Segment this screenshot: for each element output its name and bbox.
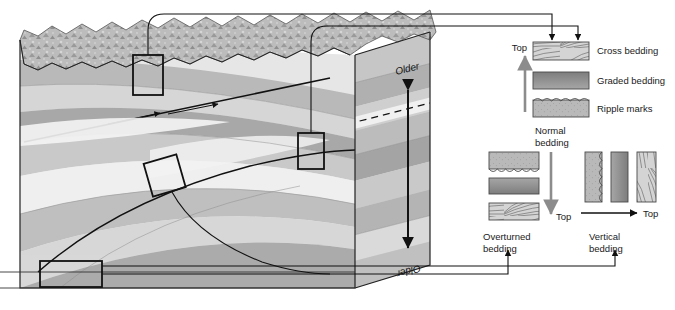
- overturned-ripple-marks[interactable]: [489, 152, 539, 172]
- overturned-graded-bedding[interactable]: [489, 178, 539, 194]
- normal-caption-line1: Normal: [535, 125, 566, 136]
- overturned-bedding-panel: Top Overturned bedding: [483, 152, 571, 254]
- vertical-ripple-marks[interactable]: [585, 152, 602, 202]
- overturned-top-label: Top: [556, 211, 571, 222]
- normal-caption-line2: bedding: [535, 137, 569, 148]
- legend-item-ripple-marks[interactable]: Ripple marks: [533, 99, 653, 118]
- front-face-strata: [20, 30, 360, 292]
- cross-bedding-label: Cross bedding: [597, 45, 658, 56]
- cross-bedding-swatch: [533, 42, 589, 60]
- legend-item-cross-bedding[interactable]: Cross bedding: [533, 42, 658, 60]
- vertical-caption-line1: Vertical: [589, 231, 620, 242]
- vertical-top-label: Top: [643, 208, 658, 219]
- geology-block-diagram: Older Older: [0, 0, 675, 310]
- graded-bedding-label: Graded bedding: [597, 75, 665, 86]
- overturned-caption-line1: Overturned: [483, 231, 531, 242]
- vertical-caption-line2: bedding: [589, 243, 623, 254]
- figure-canvas: Older Older: [0, 0, 675, 310]
- vertical-cross-bedding[interactable]: [637, 152, 656, 202]
- ripple-marks-swatch: [533, 100, 589, 117]
- ripple-marks-label: Ripple marks: [597, 103, 653, 114]
- normal-top-label: Top: [512, 42, 527, 53]
- normal-bedding-legend: Top Cross bedding Graded bedding Ripple …: [512, 42, 665, 148]
- vertical-graded-bedding[interactable]: [611, 152, 628, 202]
- overturned-cross-bedding[interactable]: [489, 203, 539, 220]
- legend-item-graded-bedding[interactable]: Graded bedding: [533, 72, 665, 89]
- overturned-caption-line2: bedding: [483, 243, 517, 254]
- graded-bedding-swatch: [533, 72, 589, 89]
- vertical-bedding-panel: Top Vertical bedding: [581, 152, 658, 254]
